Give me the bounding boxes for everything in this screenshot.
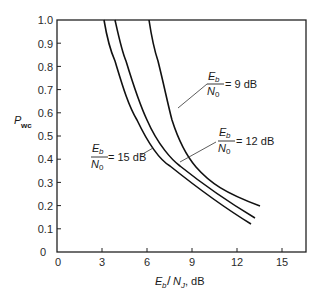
annotation-9db: E b N 0 = 9 dB xyxy=(178,70,257,108)
y-tick-label: 0.4 xyxy=(38,153,53,165)
x-axis-label-unit: , dB xyxy=(185,275,205,287)
x-tick-label: 6 xyxy=(144,256,150,268)
annotation-12db: E b N 0 = 12 dB xyxy=(180,126,274,162)
y-tick-label: 0.8 xyxy=(38,61,53,73)
y-tick-label: 0.6 xyxy=(38,107,53,119)
y-tick-label: 0 xyxy=(40,246,46,258)
y-tick-label: 0.7 xyxy=(38,84,53,96)
x-axis-label: E b / N J , dB xyxy=(155,273,205,290)
ann12-den-sub: 0 xyxy=(226,147,231,156)
ann9-num-sub: b xyxy=(215,75,220,84)
curve-9db xyxy=(149,20,260,206)
x-axis-label-N: N xyxy=(173,275,181,287)
ann12-val: = 12 dB xyxy=(236,135,274,147)
ann9-den-sub: 0 xyxy=(215,90,220,99)
x-axis-label-slash: / xyxy=(167,273,171,288)
ann12-den: N xyxy=(218,142,226,154)
ann15-den-sub: 0 xyxy=(99,163,104,172)
ann9-den: N xyxy=(207,85,215,97)
y-tick-label: 0.1 xyxy=(38,223,53,235)
x-tick-label: 12 xyxy=(231,256,243,268)
ann15-num-sub: b xyxy=(99,147,104,156)
ann9-val: = 9 dB xyxy=(225,78,257,90)
x-tick-label: 3 xyxy=(99,256,105,268)
x-tick-labels: 0 3 6 9 12 15 xyxy=(55,256,288,268)
y-axis-label-sub: wc xyxy=(20,121,32,130)
ann15-val: = 15 dB xyxy=(108,151,146,163)
y-tick-label: 1.0 xyxy=(38,14,53,26)
x-tick-label: 0 xyxy=(55,256,61,268)
annotation-15db: E b N 0 = 15 dB xyxy=(91,142,153,172)
y-tick-label: 0.3 xyxy=(38,177,53,189)
y-tick-label: 0.2 xyxy=(38,200,53,212)
ann12-num-sub: b xyxy=(226,131,231,140)
ann15-den: N xyxy=(91,158,99,170)
x-tick-label: 15 xyxy=(276,256,288,268)
y-axis-label: P wc xyxy=(14,114,32,130)
chart: 0 0.1 0.2 0.3 0.4 0.5 0.6 0.7 0.8 0.9 1.… xyxy=(0,0,322,296)
y-tick-label: 0.9 xyxy=(38,38,53,50)
x-tick-label: 9 xyxy=(189,256,195,268)
y-tick-labels: 0 0.1 0.2 0.3 0.4 0.5 0.6 0.7 0.8 0.9 1.… xyxy=(38,14,53,258)
y-tick-label: 0.5 xyxy=(38,130,53,142)
